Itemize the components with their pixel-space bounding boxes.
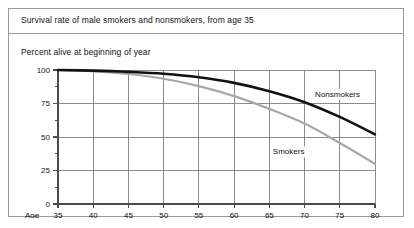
chart-canvas: 0255075100 35404550556065707580 Age Nons… [9,9,405,218]
x-tick-label: 50 [159,211,168,218]
x-tick-label: 45 [124,211,133,218]
y-axis-ticks [53,70,58,204]
y-axis-tick-labels: 0255075100 [37,66,51,209]
series-line-nonsmokers [58,70,375,134]
x-axis-tick-labels: 35404550556065707580 [54,211,380,218]
plot-area: 0255075100 35404550556065707580 Age Nons… [9,9,405,218]
x-tick-label: 60 [230,211,239,218]
x-axis-ticks [58,204,375,208]
x-tick-label: 80 [371,211,380,218]
series-label-nonsmokers: Nonsmokers [315,90,360,99]
x-tick-label: 75 [335,211,344,218]
y-tick-label: 100 [37,66,51,75]
x-tick-label: 70 [300,211,309,218]
x-tick-label: 40 [89,211,98,218]
x-tick-label: 35 [54,211,63,218]
y-tick-label: 0 [46,200,51,209]
x-axis-name-label: Age [25,211,40,218]
series-line-smokers [58,70,375,164]
chart-figure-frame: Survival rate of male smokers and nonsmo… [8,8,404,217]
x-tick-label: 55 [194,211,203,218]
y-tick-label: 25 [41,166,50,175]
series-label-smokers: Smokers [273,147,305,156]
horizontal-gridlines [58,70,375,171]
x-tick-label: 65 [265,211,274,218]
data-series-lines [58,70,375,164]
y-tick-label: 50 [41,133,50,142]
x-axis-name: Age [25,211,40,218]
y-tick-label: 75 [41,99,50,108]
